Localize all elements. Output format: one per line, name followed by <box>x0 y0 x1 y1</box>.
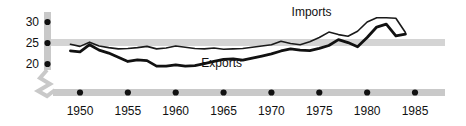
series-label-imports: Imports <box>292 5 332 19</box>
x-tick-label-1965: 1965 <box>210 104 237 118</box>
x-tick-dot-1960 <box>173 89 179 95</box>
year-axis-labels: 19501955196019651970197519801985 <box>67 104 429 118</box>
x-tick-dot-1980 <box>364 89 370 95</box>
x-tick-dot-1955 <box>125 89 131 95</box>
x-tick-dot-1975 <box>316 89 322 95</box>
y-tick-label-20: 20 <box>26 57 40 71</box>
x-tick-dot-1950 <box>77 89 83 95</box>
x-tick-dot-1985 <box>412 89 418 95</box>
x-tick-label-1980: 1980 <box>354 104 381 118</box>
x-tick-label-1955: 1955 <box>115 104 142 118</box>
y-tick-label-25: 25 <box>26 36 40 50</box>
year-axis-band <box>53 89 445 96</box>
value-axis-labels: 30 25 20 <box>26 15 40 71</box>
y-tick-label-30: 30 <box>26 15 40 29</box>
axis-break-zigzag <box>38 70 55 96</box>
reference-band-25 <box>47 39 445 46</box>
series-label-exports: Exports <box>201 56 242 70</box>
x-tick-label-1950: 1950 <box>67 104 94 118</box>
x-tick-dot-1965 <box>220 89 226 95</box>
chart-container: 30 25 20 1950195519601965197019751980198… <box>0 0 466 126</box>
x-tick-label-1970: 1970 <box>258 104 285 118</box>
line-chart: 30 25 20 1950195519601965197019751980198… <box>0 0 466 126</box>
series-annotations: ImportsExports <box>201 5 331 69</box>
x-tick-label-1985: 1985 <box>402 104 429 118</box>
x-tick-label-1975: 1975 <box>306 104 333 118</box>
x-tick-label-1960: 1960 <box>162 104 189 118</box>
x-tick-dot-1970 <box>268 89 274 95</box>
